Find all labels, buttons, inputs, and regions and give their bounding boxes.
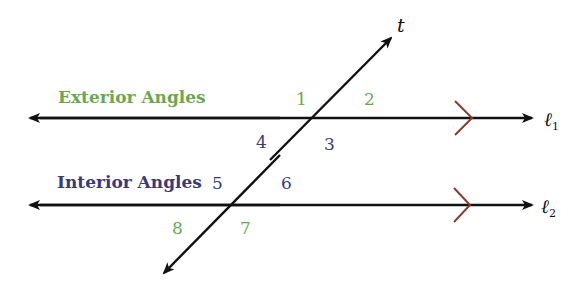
line-l2-label: ℓ2 — [541, 197, 556, 219]
angle-2: 2 — [364, 91, 375, 108]
angle-7: 7 — [240, 220, 251, 237]
angle-4: 4 — [256, 134, 267, 151]
angle-8: 8 — [172, 220, 183, 237]
subscript: 2 — [549, 207, 556, 220]
angle-5: 5 — [212, 175, 223, 192]
ell-symbol: ℓ — [544, 108, 552, 130]
subscript: 1 — [552, 120, 559, 133]
angle-3: 3 — [324, 136, 335, 153]
diagram-canvas — [0, 0, 569, 298]
angle-1: 1 — [296, 91, 307, 108]
interior-angles-heading: Interior Angles — [57, 174, 202, 191]
line-l1-label: ℓ1 — [544, 110, 559, 132]
angle-6: 6 — [281, 175, 292, 192]
transversal-label: t — [397, 16, 405, 35]
ell-symbol: ℓ — [541, 195, 549, 217]
exterior-angles-heading: Exterior Angles — [58, 89, 206, 106]
